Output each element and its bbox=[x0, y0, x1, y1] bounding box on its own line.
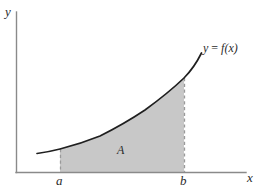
function-label-rhs: f(x) bbox=[221, 41, 238, 55]
x-axis-label: x bbox=[247, 171, 253, 184]
upper-bound-label: b bbox=[180, 174, 187, 187]
figure-area-under-curve: y x a b A y = f(x) bbox=[0, 0, 265, 191]
figure-canvas bbox=[0, 0, 265, 191]
y-axis-label: y bbox=[5, 5, 11, 18]
function-label: y = f(x) bbox=[203, 42, 238, 54]
lower-bound-label: a bbox=[56, 174, 63, 187]
function-label-equals: = bbox=[208, 41, 221, 55]
area-label: A bbox=[117, 144, 124, 156]
